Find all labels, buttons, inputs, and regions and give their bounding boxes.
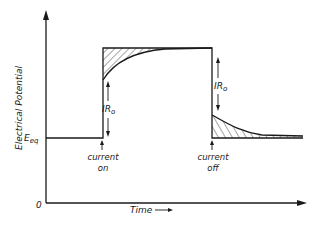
event-on-marker <box>100 140 104 150</box>
arrow-down-icon <box>216 105 220 111</box>
ideal-potential-trace <box>46 48 303 138</box>
event-on-label-line1: current <box>88 152 120 162</box>
time-arrow-icon <box>155 208 173 212</box>
y-axis <box>43 10 49 203</box>
event-on-label-line2: on <box>98 163 109 173</box>
ir-drop-on-label: IRo <box>102 104 115 116</box>
arrow-up-icon <box>216 57 220 63</box>
arrow-up-icon <box>210 140 214 145</box>
y-axis-label: Electrical Potential <box>14 66 24 150</box>
x-axis-label: Time <box>130 205 153 215</box>
potential-time-diagram: Electrical Potential 0 Eeq IRo IRo curre… <box>0 0 320 225</box>
arrow-up-icon <box>106 81 110 87</box>
x-axis <box>46 200 307 206</box>
event-off-label-line2: off <box>207 163 219 173</box>
baseline-label: Eeq <box>24 133 39 145</box>
event-off-marker <box>210 140 214 150</box>
arrow-up-icon <box>100 140 104 145</box>
event-off-label-line1: current <box>198 152 230 162</box>
x-axis-arrow-icon <box>297 200 307 206</box>
arrow-down-icon <box>106 131 110 137</box>
origin-label: 0 <box>36 200 42 210</box>
y-axis-arrow-icon <box>43 10 49 20</box>
ir-drop-off-label: IRo <box>214 81 227 93</box>
